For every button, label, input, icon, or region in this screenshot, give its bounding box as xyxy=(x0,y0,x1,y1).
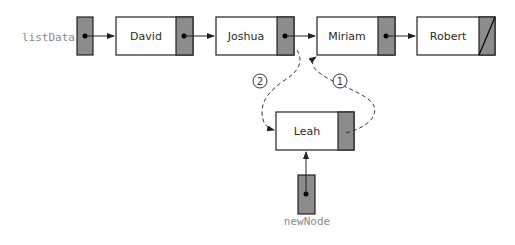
list-data-pointer xyxy=(77,17,114,55)
node-label: Robert xyxy=(430,30,467,43)
list-data-label: listData xyxy=(22,31,75,44)
node-joshua: Joshua xyxy=(216,17,315,55)
node-label: Joshua xyxy=(227,30,264,43)
node-label: Miriam xyxy=(328,30,366,43)
node-robert: Robert xyxy=(417,17,495,55)
step-2-badge: 2 xyxy=(257,76,263,87)
node-label: David xyxy=(130,30,162,43)
new-node-label: newNode xyxy=(284,215,330,228)
step-1-badge: 1 xyxy=(337,76,343,87)
new-node-pointer xyxy=(298,152,315,214)
linked-list-diagram: listData David Joshua Miriam Robert xyxy=(0,0,515,245)
node-label: Leah xyxy=(294,125,320,138)
node-leah: Leah xyxy=(276,112,354,150)
node-miriam: Miriam xyxy=(317,17,415,55)
node-david: David xyxy=(116,17,214,55)
